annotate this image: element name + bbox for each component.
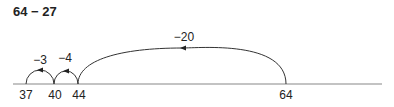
tick-label-64: 64 — [279, 88, 292, 102]
tick-label-44: 44 — [72, 88, 85, 102]
tick-label-37: 37 — [19, 88, 32, 102]
jump-label-minus-4: −4 — [58, 51, 72, 65]
jump-label-minus-20: −20 — [174, 30, 194, 44]
tick-label-40: 40 — [48, 88, 61, 102]
jump-label-minus-3: −3 — [33, 53, 47, 67]
